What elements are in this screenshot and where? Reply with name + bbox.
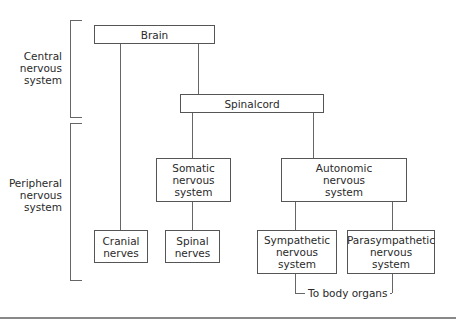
cns-label: Central nervous system xyxy=(14,50,62,86)
edge-somatic-spinal xyxy=(192,202,193,230)
edge-sympathetic-organs xyxy=(295,274,296,293)
bottom-rule xyxy=(0,317,456,319)
to-body-organs-label: To body organs xyxy=(305,287,390,299)
edge-spinalcord-autonomic xyxy=(313,113,314,158)
node-spinal: Spinal nerves xyxy=(165,230,220,263)
node-spinalcord: Spinalcord xyxy=(180,94,324,113)
pns-label: Peripheral nervous system xyxy=(4,177,62,213)
edge-brain-spinalcord xyxy=(198,44,199,94)
node-cranial: Cranial nerves xyxy=(94,230,148,263)
edge-spinalcord-somatic xyxy=(192,113,193,158)
edge-brain-cranial xyxy=(120,44,121,230)
node-autonomic: Autonomic nervous system xyxy=(281,158,407,202)
node-brain: Brain xyxy=(94,25,215,44)
edge-parasympathetic-organs xyxy=(392,274,393,293)
node-somatic: Somatic nervous system xyxy=(156,158,231,202)
edge-autonomic-parasympathetic xyxy=(392,202,393,230)
node-sympathetic: Sympathetic nervous system xyxy=(257,230,337,274)
node-parasympathetic: Parasympathetic nervous system xyxy=(347,230,435,274)
edge-autonomic-sympathetic xyxy=(295,202,296,230)
